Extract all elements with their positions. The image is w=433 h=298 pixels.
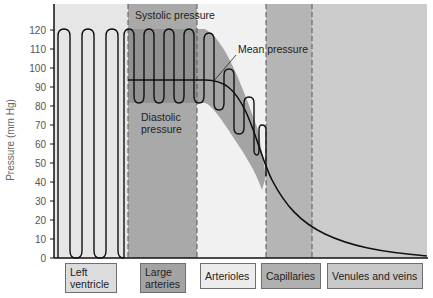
tick-80: 80: [35, 101, 47, 112]
diastolic-pressure-label-1: Diastolic: [141, 111, 181, 123]
tick-60: 60: [35, 139, 47, 150]
category-label-line: ventricle: [70, 278, 112, 290]
tick-50: 50: [35, 158, 47, 169]
tick-0: 0: [40, 253, 46, 264]
category-label-line: Left: [70, 266, 112, 278]
category-label-line: Venules and veins: [332, 266, 418, 286]
y-axis-label: Pressure (mm Hg): [5, 99, 16, 181]
category-label-line: Arterioles: [205, 266, 251, 286]
category-label-line: Capillaries: [266, 266, 316, 286]
category-capillaries: Capillaries: [261, 263, 321, 289]
tick-40: 40: [35, 177, 47, 188]
category-label-line: Large: [145, 266, 181, 278]
pressure-chart: 0 10 20 30 40 50 60 70 80 90 100 110 120…: [0, 0, 433, 298]
category-left-ventricle: Left ventricle: [65, 263, 117, 293]
systolic-pressure-label: Systolic pressure: [135, 9, 215, 21]
tick-90: 90: [35, 82, 47, 93]
region-venules-veins: [312, 4, 427, 258]
category-large-arteries: Large arteries: [140, 263, 186, 293]
tick-120: 120: [29, 25, 46, 36]
category-arterioles: Arterioles: [200, 263, 256, 289]
tick-110: 110: [30, 44, 46, 55]
tick-100: 100: [29, 63, 46, 74]
mean-pressure-label: Mean pressure: [238, 43, 308, 55]
tick-10: 10: [35, 234, 47, 245]
category-label-line: arteries: [145, 278, 181, 290]
region-left-ventricle: [54, 4, 128, 258]
category-venules-veins: Venules and veins: [327, 263, 423, 289]
tick-70: 70: [35, 120, 47, 131]
y-tick-labels: 0 10 20 30 40 50 60 70 80 90 100 110 120: [29, 25, 46, 264]
tick-20: 20: [35, 215, 47, 226]
tick-30: 30: [35, 196, 47, 207]
diastolic-pressure-label-2: pressure: [141, 123, 182, 135]
